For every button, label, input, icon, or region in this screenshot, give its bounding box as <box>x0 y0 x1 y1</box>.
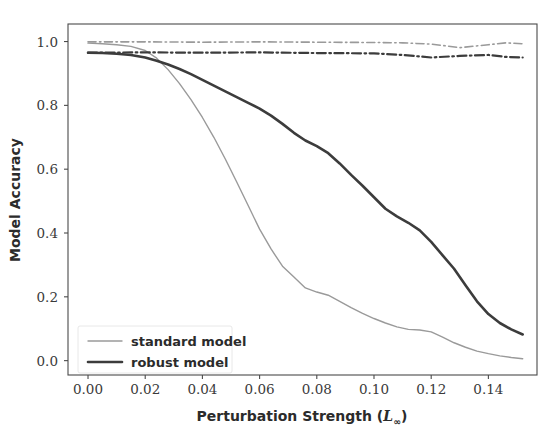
y-tick-label: 0.8 <box>37 97 58 113</box>
x-axis-title-close: ) <box>401 408 407 424</box>
x-axis-title-symbol: L <box>382 408 393 424</box>
x-tick-label: 0.10 <box>359 381 389 397</box>
x-tick-label: 0.12 <box>416 381 446 397</box>
y-tick-label: 1.0 <box>37 34 58 50</box>
y-tick-label: 0.6 <box>37 161 58 177</box>
legend-label-0: standard model <box>131 334 246 349</box>
y-tick-label: 0.4 <box>37 225 58 241</box>
line-chart: 0.000.020.040.060.080.100.120.14 0.00.20… <box>0 0 558 439</box>
y-tick-label: 0.2 <box>37 289 58 305</box>
x-axis-title-main: Perturbation Strength ( <box>197 408 384 424</box>
x-tick-label: 0.00 <box>73 381 103 397</box>
plot-background <box>68 24 537 375</box>
x-tick-label: 0.04 <box>187 381 217 397</box>
x-axis-title: Perturbation Strength (L∞) <box>197 408 408 427</box>
legend-label-1: robust model <box>131 355 228 370</box>
x-tick-label: 0.14 <box>473 381 503 397</box>
x-axis-title-subscript: ∞ <box>393 416 401 427</box>
y-axis-ticks: 0.00.20.40.60.81.0 <box>37 34 68 369</box>
chart-figure: 0.000.020.040.060.080.100.120.14 0.00.20… <box>0 0 558 439</box>
x-tick-label: 0.08 <box>302 381 332 397</box>
legend: standard modelrobust model <box>78 326 246 373</box>
x-axis-ticks: 0.000.020.040.060.080.100.120.14 <box>73 375 503 397</box>
x-tick-label: 0.06 <box>245 381 275 397</box>
y-tick-label: 0.0 <box>37 353 58 369</box>
x-tick-label: 0.02 <box>130 381 160 397</box>
y-axis-title: Model Accuracy <box>7 138 23 262</box>
